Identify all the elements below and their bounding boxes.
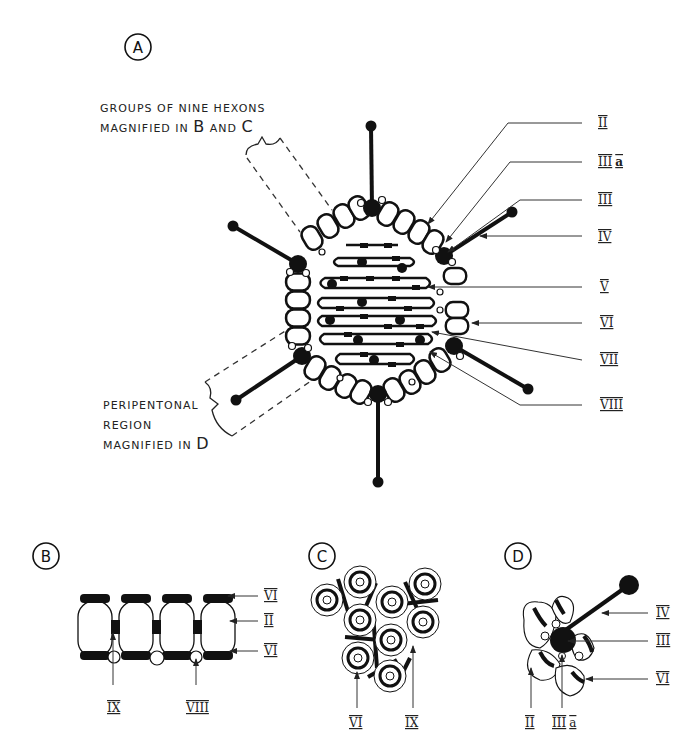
penton-fibers [233, 126, 528, 482]
svg-text:VI: VI [655, 672, 670, 686]
svg-text:IV: IV [598, 230, 612, 244]
svg-text:VI: VI [599, 316, 614, 330]
annotation-groups-line2: MAGNIFIED IN B AND C [100, 117, 254, 136]
svg-text:III: III [598, 193, 612, 207]
annotation-peripentonal-line2: REGION [103, 419, 152, 432]
panel-c-label: C [317, 548, 327, 566]
panel-a-label: A [133, 39, 144, 57]
svg-text:VIII: VIII [185, 701, 209, 715]
svg-text:II: II [525, 716, 535, 730]
capsid-shell [286, 193, 468, 406]
annotation-peripentonal-line3: MAGNIFIED IN D [103, 434, 210, 453]
svg-text:VII: VII [599, 353, 618, 367]
bracket-bottom [205, 382, 232, 436]
adenovirus-structure-diagram: A GROUPS OF NINE HEXONS MAGNIFIED IN B A… [0, 0, 698, 751]
core-dna [318, 245, 436, 364]
hexon-row [78, 594, 235, 665]
annotation-groups-line1: GROUPS OF NINE HEXONS [100, 102, 266, 115]
peripentonal-region [523, 575, 639, 696]
svg-text:VI: VI [263, 644, 278, 658]
svg-text:VI: VI [348, 716, 363, 730]
svg-text:V: V [599, 280, 609, 294]
fiber-knobs [228, 121, 534, 488]
annotation-peripentonal-line1: PERIPENTONAL [103, 399, 199, 412]
svg-text:IIIa: IIIa [598, 155, 623, 169]
svg-text:IX: IX [107, 701, 121, 715]
svg-text:VIII: VIII [599, 398, 623, 412]
panel-b-label: B [41, 548, 51, 566]
panel-b: B [33, 543, 278, 715]
svg-text:II: II [264, 614, 274, 628]
panel-d-label: D [512, 548, 524, 566]
core-proteins [325, 243, 425, 367]
svg-text:IIIa: IIIa [552, 716, 576, 730]
svg-text:IV: IV [656, 606, 670, 620]
callout-labels-a: II IIIa III IV V VI VII VIII [598, 116, 623, 412]
svg-text:II: II [598, 116, 608, 130]
svg-text:IX: IX [405, 716, 419, 730]
bracket-top [246, 137, 280, 155]
panel-a: A GROUPS OF NINE HEXONS MAGNIFIED IN B A… [100, 34, 623, 488]
panel-d: D [505, 543, 670, 730]
svg-text:VI: VI [263, 589, 278, 603]
panel-c: C [309, 543, 441, 730]
svg-text:III: III [656, 634, 670, 648]
